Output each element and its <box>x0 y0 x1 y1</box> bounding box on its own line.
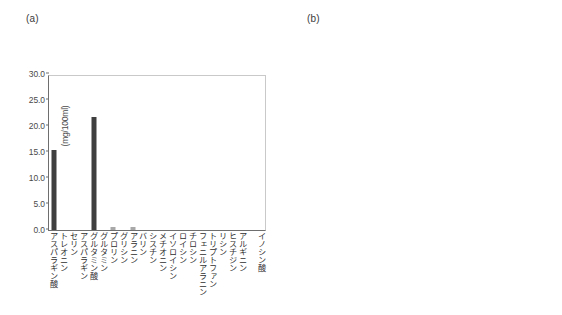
x-tick-label: アルギニン <box>237 232 246 272</box>
x-tick-label: セリン <box>68 232 77 256</box>
x-tick-label: シスチン <box>148 232 157 264</box>
bar <box>111 227 116 230</box>
x-tick-label: チロシン <box>187 232 196 264</box>
x-tick-label: グルタミン酸 <box>88 232 97 280</box>
y-tick-label: 15.0 <box>29 147 45 157</box>
plot-area-a: (mg/100ml) 0.05.010.015.020.025.030.0 <box>48 75 266 231</box>
y-tick-mark <box>46 73 49 74</box>
x-tick-label: イノシン酸 <box>257 232 266 272</box>
x-tick-label: アラニン <box>128 232 137 264</box>
x-tick-label: フェニルアラニン <box>197 232 206 296</box>
x-tick-label: プロリン <box>108 232 117 264</box>
y-tick-label: 10.0 <box>29 173 45 183</box>
panel-a-label: (a) <box>26 13 39 24</box>
y-tick-label: 20.0 <box>29 121 45 131</box>
bar <box>131 227 136 230</box>
x-tick-label: グリシン <box>118 232 127 264</box>
x-tick-label: メチオニン <box>158 232 167 272</box>
panel-b-label: (b) <box>307 13 320 24</box>
panel-a: (a) (mg/100ml) 0.05.010.015.020.025.030.… <box>0 0 281 315</box>
x-tick-label: グルタミン <box>98 232 107 272</box>
y-tick-label: 30.0 <box>29 69 45 79</box>
bar <box>51 150 56 230</box>
x-tick-label: トレオニン <box>59 232 68 272</box>
bar <box>91 117 96 230</box>
y-tick-label: 5.0 <box>33 199 45 209</box>
figure-container: (a) (mg/100ml) 0.05.010.015.020.025.030.… <box>0 0 562 315</box>
y-tick-label: 25.0 <box>29 95 45 105</box>
panel-b: (b) (mg/100ml) 0.05.010.015.020.025.030.… <box>281 0 562 315</box>
x-tick-label: アスパラギン酸 <box>49 232 58 288</box>
x-tick-label: リシン <box>217 232 226 256</box>
x-tick-label: ロイシン <box>177 232 186 264</box>
x-tick-label: アスパラギン <box>78 232 87 280</box>
bar-series-a <box>49 76 265 230</box>
x-tick-label: バリン <box>138 232 147 256</box>
x-tick-label: ヒスチジン <box>227 232 236 272</box>
x-axis-labels-a: アスパラギン酸トレオニンセリンアスパラギングルタミン酸グルタミンプロリングリシン… <box>48 232 266 315</box>
x-tick-label: トリプトファン <box>207 232 216 288</box>
y-tick-label: 0.0 <box>33 225 45 235</box>
x-tick-label: イソロイシン <box>168 232 177 280</box>
